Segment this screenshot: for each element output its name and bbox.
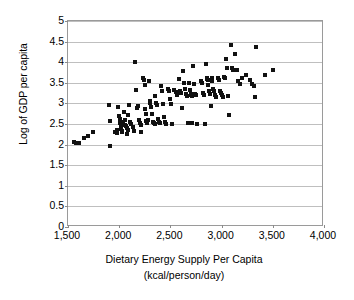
gridline xyxy=(68,186,322,187)
x-tick-label: 2,500 xyxy=(156,229,182,242)
data-point xyxy=(177,77,181,81)
x-axis-title-units: (kcal/person/day) xyxy=(24,268,344,282)
data-point xyxy=(238,82,242,86)
data-point xyxy=(227,113,231,117)
data-point xyxy=(149,105,153,109)
data-point xyxy=(181,69,185,73)
x-tick-label: 2,000 xyxy=(105,229,131,242)
data-point xyxy=(210,79,214,83)
data-point xyxy=(191,64,195,68)
y-tick-label: 3 xyxy=(36,97,64,108)
data-point xyxy=(127,103,131,107)
data-point xyxy=(162,115,166,119)
data-point xyxy=(139,123,143,127)
data-point xyxy=(209,104,213,108)
data-point xyxy=(161,102,165,106)
y-tick-label: 4 xyxy=(36,56,64,67)
y-tick-mark xyxy=(65,42,68,43)
data-point xyxy=(187,81,191,85)
data-point xyxy=(235,68,239,72)
data-point xyxy=(192,82,196,86)
data-point xyxy=(158,121,162,125)
data-point xyxy=(153,94,157,98)
data-point xyxy=(139,130,143,134)
data-point xyxy=(206,83,210,87)
data-point xyxy=(115,131,119,135)
y-tick-label: 1.5 xyxy=(36,159,64,170)
data-point xyxy=(225,66,229,70)
x-tick-mark xyxy=(68,225,69,228)
data-point xyxy=(143,83,147,87)
y-tick-label: 5 xyxy=(36,15,64,26)
data-point xyxy=(91,130,95,134)
data-point xyxy=(252,84,256,88)
data-point xyxy=(183,87,187,91)
y-tick-mark xyxy=(65,62,68,63)
data-point xyxy=(271,68,275,72)
data-point xyxy=(190,121,194,125)
data-point xyxy=(179,91,183,95)
data-point xyxy=(131,125,135,129)
y-tick-mark xyxy=(65,206,68,207)
data-point xyxy=(108,119,112,123)
y-tick-label: 3.5 xyxy=(36,76,64,87)
y-tick-mark xyxy=(65,165,68,166)
data-point xyxy=(254,45,258,49)
data-point xyxy=(194,93,198,97)
y-tick-mark xyxy=(65,186,68,187)
data-point xyxy=(132,129,136,133)
data-point xyxy=(150,112,154,116)
data-point xyxy=(186,121,190,125)
y-tick-mark xyxy=(65,145,68,146)
data-point xyxy=(123,118,127,122)
data-point xyxy=(221,95,225,99)
data-point xyxy=(214,95,218,99)
scatter-chart: Log of GDP per capita 00.511.522.533.544… xyxy=(0,0,354,300)
data-point xyxy=(147,79,151,83)
data-point xyxy=(160,89,164,93)
data-point xyxy=(126,113,130,117)
gridline xyxy=(68,206,322,207)
x-tick-label: 3,000 xyxy=(207,229,233,242)
data-point xyxy=(203,122,207,126)
y-tick-label: 0.5 xyxy=(36,200,64,211)
y-axis-title: Log of GDP per capita xyxy=(17,19,29,169)
data-point xyxy=(126,128,130,132)
data-point xyxy=(200,81,204,85)
data-point xyxy=(107,103,111,107)
data-point xyxy=(134,88,138,92)
x-tick-mark xyxy=(324,225,325,228)
data-point xyxy=(202,93,206,97)
x-tick-label: 4,000 xyxy=(310,229,336,242)
data-point xyxy=(143,107,147,111)
data-point xyxy=(180,106,184,110)
data-point xyxy=(77,141,81,145)
x-tick-mark xyxy=(119,225,120,228)
data-point xyxy=(136,104,140,108)
data-point xyxy=(244,73,248,77)
data-point xyxy=(169,102,173,106)
data-point xyxy=(182,81,186,85)
y-tick-label: 4.5 xyxy=(36,35,64,46)
data-point xyxy=(155,103,159,107)
data-point xyxy=(142,78,146,82)
y-tick-mark xyxy=(65,83,68,84)
data-point xyxy=(86,134,90,138)
data-point xyxy=(168,97,172,101)
data-point xyxy=(116,105,120,109)
gridline xyxy=(68,42,322,43)
gridline xyxy=(68,21,322,22)
x-tick-label: 3,500 xyxy=(259,229,285,242)
y-tick-label: 1 xyxy=(36,179,64,190)
y-tick-mark xyxy=(65,124,68,125)
data-point xyxy=(146,118,150,122)
data-point xyxy=(204,62,208,66)
data-point xyxy=(195,122,199,126)
x-tick-label: 1,500 xyxy=(54,229,80,242)
x-axis-title: Dietary Energy Supply Per Capita xyxy=(24,252,344,266)
gridline xyxy=(68,145,322,146)
data-point xyxy=(167,89,171,93)
data-point xyxy=(133,60,137,64)
data-point xyxy=(159,84,163,88)
data-point xyxy=(224,57,228,61)
